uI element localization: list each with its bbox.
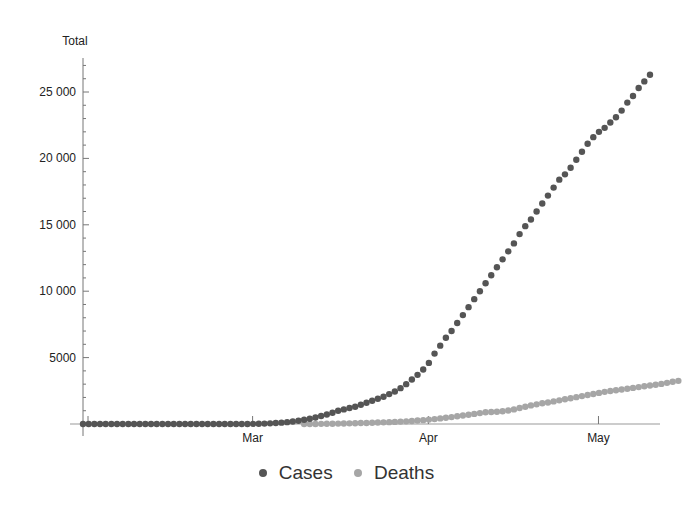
deaths-point [647,382,653,388]
cases-point [630,93,636,99]
cases-point [494,264,500,270]
deaths-point [669,379,675,385]
y-tick-label: 5000 [49,351,76,365]
deaths-point [562,396,568,402]
cases-point [188,421,194,427]
cases-point [239,421,245,427]
deaths-point [324,421,330,427]
cases-point [641,78,647,84]
deaths-point [630,385,636,391]
cases-point [85,421,91,427]
x-tick-label: Mar [242,431,263,445]
cases-point [102,421,108,427]
cases-point [601,125,607,131]
deaths-point [596,390,602,396]
cases-point [437,342,443,348]
axes: 500010 00015 00020 00025 000TotalMarAprM… [39,34,660,445]
cases-point [284,419,290,425]
data-points [80,72,682,428]
cases-point [550,184,556,190]
cases-point [290,418,296,424]
deaths-point [465,412,471,418]
cases-point [256,421,262,427]
cases-point [607,119,613,125]
deaths-point [380,419,386,425]
deaths-point [329,421,335,427]
deaths-point [545,399,551,405]
cases-point [454,320,460,326]
cases-point [380,394,386,400]
cases-point [567,164,573,170]
legend-item-cases: Cases [259,462,333,484]
cases-point [443,334,449,340]
cases-point [335,408,341,414]
cases-point [352,404,358,410]
deaths-point [624,385,630,391]
cases-point [165,421,171,427]
cases-point [159,421,165,427]
cases-point [386,391,392,397]
deaths-point [494,409,500,415]
deaths-point [584,392,590,398]
deaths-point [511,406,517,412]
deaths-point [533,401,539,407]
cases-point [176,421,182,427]
cases-point [505,248,511,254]
deaths-point [460,412,466,418]
cases-point [182,421,188,427]
deaths-point [358,420,364,426]
cases-point [278,419,284,425]
cases-point [114,421,120,427]
cases-point [431,350,437,356]
cases-point [420,366,426,372]
deaths-point [448,414,454,420]
deaths-point [352,420,358,426]
deaths-point [522,404,528,410]
deaths-point [601,389,607,395]
y-tick-label: 15 000 [39,218,76,232]
cases-point [227,421,233,427]
cases-point [392,388,398,394]
cases-point [363,400,369,406]
deaths-point [482,409,488,415]
deaths-point [652,381,658,387]
deaths-point [499,408,505,414]
legend-item-deaths: Deaths [354,462,434,484]
deaths-point [613,387,619,393]
cases-point [499,256,505,262]
deaths-point [635,384,641,390]
y-axis-title: Total [62,34,87,48]
cases-point [148,421,154,427]
deaths-point [375,419,381,425]
deaths-point [556,397,562,403]
deaths-point [392,419,398,425]
cases-point [210,421,216,427]
deaths-point [675,378,681,384]
deaths-point [505,407,511,413]
deaths-point [335,420,341,426]
cases-point [375,396,381,402]
cases-point [522,223,528,229]
cases-point [97,421,103,427]
cases-point [414,372,420,378]
cases-point [346,405,352,411]
deaths-point [403,418,409,424]
cases-point [301,417,307,423]
cases-point [137,421,143,427]
deaths-point [386,419,392,425]
cases-marker-icon [259,469,267,477]
cases-point [511,240,517,246]
deaths-point [567,395,573,401]
x-tick-label: Apr [419,431,438,445]
cases-point [573,157,579,163]
deaths-point [664,380,670,386]
deaths-point [488,409,494,415]
cases-point [579,149,585,155]
cases-point [222,421,228,427]
cases-point [205,421,211,427]
deaths-point [550,398,556,404]
deaths-point [471,411,477,417]
deaths-point [369,420,375,426]
cases-point [329,410,335,416]
x-tick-label: May [587,431,610,445]
